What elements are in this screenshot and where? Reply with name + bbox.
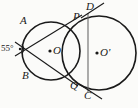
center-dot-O-prime [95,51,98,54]
geometry-figure: A B P Q D C O O' 55° [0,0,138,108]
point-label-Q: Q [70,80,78,91]
vertex-dot-external [19,48,21,50]
point-label-B: B [22,70,29,81]
center-label-O-prime: O' [100,47,110,58]
center-dot-O [48,49,51,52]
point-label-P: P [73,11,80,22]
point-label-C: C [84,90,91,101]
point-label-D: D [86,1,94,12]
point-label-A: A [20,15,27,26]
center-label-O: O [53,45,61,56]
angle-label-55-degrees: 55° [1,44,14,53]
